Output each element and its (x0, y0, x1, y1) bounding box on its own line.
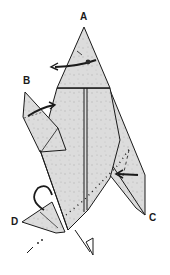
origami-figure (0, 0, 170, 275)
push-arrow-c-icon (118, 174, 138, 175)
hollow-arrow-icon (86, 238, 93, 255)
head-flap-a (57, 27, 110, 88)
label-d: D (11, 217, 18, 227)
flap-d (22, 202, 65, 233)
origami-diagram: A B C D (0, 0, 170, 275)
label-b: B (23, 76, 30, 86)
label-a: A (80, 12, 87, 22)
label-c: C (149, 213, 156, 223)
